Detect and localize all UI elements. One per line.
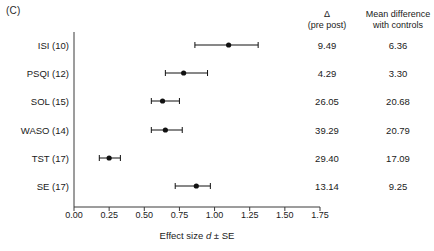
data-point-marker[interactable]: [163, 127, 168, 132]
x-axis-tick-label: 0.00: [65, 210, 83, 220]
y-axis-row-label: WASO (14): [0, 125, 74, 136]
data-point-marker[interactable]: [194, 183, 199, 188]
cell-delta-pre-post: 13.14: [296, 181, 358, 192]
x-axis-title-prefix: Effect size: [160, 230, 206, 241]
cell-delta-pre-post: 26.05: [296, 96, 358, 107]
column-header-mean-difference: Mean difference with controls: [362, 9, 434, 31]
cell-delta-pre-post: 39.29: [296, 125, 358, 136]
x-axis-tick-label: 0.75: [171, 210, 189, 220]
column-header-delta: Δ (pre post): [296, 9, 358, 31]
cell-mean-difference-with-controls: 17.09: [362, 153, 434, 164]
cell-mean-difference-with-controls: 3.30: [362, 68, 434, 79]
y-axis-row-label: SE (17): [0, 181, 74, 192]
x-axis-title-suffix: ± SE: [211, 230, 234, 241]
data-point-marker[interactable]: [226, 42, 231, 47]
column-header-delta-line2: (pre post): [296, 20, 358, 31]
y-axis-row-label: TST (17): [0, 153, 74, 164]
x-axis-title: Effect size d ± SE: [74, 230, 320, 241]
cell-mean-difference-with-controls: 9.25: [362, 181, 434, 192]
x-axis-tick-label: 1.50: [276, 210, 294, 220]
y-axis-row-label: PSQI (12): [0, 68, 74, 79]
column-header-mean-line1: Mean difference: [362, 9, 434, 20]
x-axis-tick-label: 1.00: [206, 210, 224, 220]
x-axis-tick-label: 0.50: [136, 210, 154, 220]
x-axis-tick-label: 0.25: [100, 210, 118, 220]
data-point-marker[interactable]: [181, 70, 186, 75]
x-axis-tick-label: 1.25: [241, 210, 259, 220]
cell-mean-difference-with-controls: 6.36: [362, 40, 434, 51]
y-axis-row-label: SOL (15): [0, 96, 74, 107]
column-header-delta-line1: Δ: [296, 9, 358, 20]
cell-delta-pre-post: 29.40: [296, 153, 358, 164]
cell-mean-difference-with-controls: 20.68: [362, 96, 434, 107]
cell-delta-pre-post: 4.29: [296, 68, 358, 79]
data-point-marker[interactable]: [160, 98, 165, 103]
y-axis-row-label: ISI (10): [0, 40, 74, 51]
data-point-marker[interactable]: [107, 155, 112, 160]
x-axis-tick-label: 1.75: [311, 210, 329, 220]
cell-delta-pre-post: 9.49: [296, 40, 358, 51]
cell-mean-difference-with-controls: 20.79: [362, 125, 434, 136]
column-header-mean-line2: with controls: [362, 20, 434, 31]
